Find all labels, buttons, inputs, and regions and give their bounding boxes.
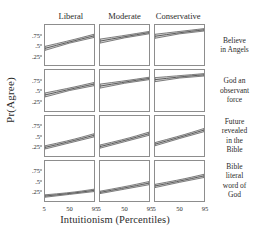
x-axis-ticks: 550955509555095 xyxy=(44,203,205,214)
x-tick-label: 95 xyxy=(202,205,209,213)
row-label-line: in the xyxy=(222,136,247,146)
x-ticks-moderate: 55095 xyxy=(99,203,150,214)
row-label-line: word of xyxy=(223,181,247,191)
x-tick-label: 5 xyxy=(42,205,45,213)
y-tick-mark xyxy=(40,45,42,46)
panel-god-an-observant-force-moderate xyxy=(99,69,150,111)
panel-future-revealed-in-the-bible-moderate xyxy=(99,115,150,157)
row-label-line: in Angels xyxy=(220,45,249,55)
y-tick-mark xyxy=(40,34,42,35)
y-ticks-row-1: .25.5.75 xyxy=(24,24,42,66)
row-label-line: force xyxy=(220,95,249,105)
row-label-line: Future xyxy=(222,117,247,127)
panel-believe-in-angels-liberal xyxy=(44,24,95,66)
panel-god-an-observant-force-conservative xyxy=(154,69,205,111)
panel-bible-literal-word-of-god-moderate xyxy=(99,160,150,202)
row-label-future-revealed-in-the-bible: Futurerevealedin theBible xyxy=(207,115,259,157)
y-tick-mark xyxy=(40,180,42,181)
x-axis-label: Intuitionism (Percentiles) xyxy=(24,214,206,225)
y-tick-mark xyxy=(40,55,42,56)
y-tick-mark xyxy=(40,135,42,136)
x-ticks-conservative: 55095 xyxy=(154,203,205,214)
y-tick-mark xyxy=(40,191,42,192)
y-tick-mark xyxy=(40,146,42,147)
y-ticks-row-4: .25.5.75 xyxy=(24,160,42,202)
panel-grid xyxy=(44,24,205,202)
y-tick-mark xyxy=(40,125,42,126)
row-label-line: Bible xyxy=(223,162,247,172)
row-label-line: God an xyxy=(220,76,249,86)
panel-god-an-observant-force-liberal xyxy=(44,69,95,111)
x-tick-label: 50 xyxy=(121,205,128,213)
y-tick-mark xyxy=(40,170,42,171)
y-ticks-row-3: .25.5.75 xyxy=(24,115,42,157)
row-label-believe-in-angels: Believein Angels xyxy=(207,24,259,66)
panel-future-revealed-in-the-bible-conservative xyxy=(154,115,205,157)
panel-bible-literal-word-of-god-conservative xyxy=(154,160,205,202)
row-label-line: Bible xyxy=(222,145,247,155)
row-labels: Believein AngelsGod anobservantforceFutu… xyxy=(207,24,259,202)
y-ticks-row-2: .25.5.75 xyxy=(24,69,42,111)
row-label-line: literal xyxy=(223,171,247,181)
x-tick-label: 5 xyxy=(152,205,155,213)
y-tick-label: .25 xyxy=(32,188,40,195)
y-tick-label: .75 xyxy=(32,31,40,38)
x-ticks-liberal: 55095 xyxy=(44,203,95,214)
x-tick-label: 50 xyxy=(66,205,73,213)
y-axis-label: Pr(Agree) xyxy=(0,0,20,200)
y-tick-mark xyxy=(40,79,42,80)
y-axis-label-text: Pr(Agree) xyxy=(4,77,16,123)
row-label-bible-literal-word-of-god: Bibleliteralword ofGod xyxy=(207,160,259,202)
x-tick-label: 50 xyxy=(176,205,183,213)
row-label-line: Believe xyxy=(220,36,249,46)
y-tick-mark xyxy=(40,90,42,91)
x-tick-label: 5 xyxy=(97,205,100,213)
row-label-god-an-observant-force: God anobservantforce xyxy=(207,69,259,111)
y-tick-label: .25 xyxy=(32,52,40,59)
y-tick-label: .75 xyxy=(32,167,40,174)
faceted-line-chart: Pr(Agree) Liberal Moderate Conservative … xyxy=(0,0,259,248)
column-header-conservative: Conservative xyxy=(151,10,205,23)
y-tick-label: .25 xyxy=(32,97,40,104)
row-label-line: revealed xyxy=(222,126,247,136)
y-tick-mark xyxy=(40,100,42,101)
y-tick-label: .75 xyxy=(32,122,40,129)
panel-believe-in-angels-moderate xyxy=(99,24,150,66)
column-header-moderate: Moderate xyxy=(98,10,152,23)
row-label-line: God xyxy=(223,190,247,200)
panel-future-revealed-in-the-bible-liberal xyxy=(44,115,95,157)
column-header-liberal: Liberal xyxy=(44,10,98,23)
row-label-line: observant xyxy=(220,86,249,96)
panel-bible-literal-word-of-god-liberal xyxy=(44,160,95,202)
panel-believe-in-angels-conservative xyxy=(154,24,205,66)
column-headers: Liberal Moderate Conservative xyxy=(44,10,205,23)
y-axis-ticks: .25.5.75.25.5.75.25.5.75.25.5.75 xyxy=(24,24,42,202)
y-tick-label: .75 xyxy=(32,76,40,83)
y-tick-label: .25 xyxy=(32,143,40,150)
